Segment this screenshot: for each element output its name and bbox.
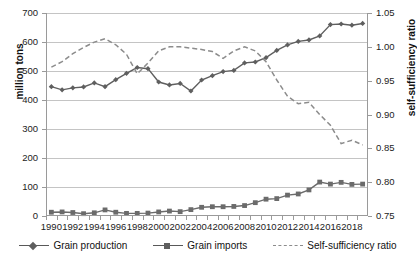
y-axis-left-tick-label: 200	[2, 153, 38, 163]
data-point-marker	[296, 192, 301, 197]
data-point-marker	[221, 69, 226, 74]
legend-item[interactable]: Grain imports	[153, 240, 247, 251]
x-axis-tick	[67, 216, 68, 220]
plot-area	[46, 13, 368, 216]
data-point-marker	[274, 196, 279, 201]
y-axis-right-tick	[368, 81, 372, 82]
legend-label: Self-sufficiency ratio	[307, 240, 396, 251]
x-axis-tick	[89, 216, 90, 220]
x-axis-tick	[46, 216, 47, 220]
data-point-marker	[210, 204, 215, 209]
data-point-marker	[189, 207, 194, 212]
x-axis-tick-label: 2014	[298, 221, 319, 232]
x-axis-tick-label: 2002	[170, 221, 191, 232]
data-point-marker	[60, 87, 65, 92]
data-point-marker	[349, 23, 354, 28]
x-axis-tick-label: 1996	[105, 221, 126, 232]
x-axis-tick	[132, 216, 133, 220]
data-point-marker	[124, 211, 129, 216]
x-axis-tick-label: 2006	[213, 221, 234, 232]
data-point-marker	[360, 182, 365, 187]
y-axis-right-tick	[368, 13, 372, 14]
data-point-marker	[253, 59, 258, 64]
data-point-marker	[49, 84, 54, 89]
data-point-marker	[49, 210, 54, 215]
y-axis-right-tick	[368, 148, 372, 149]
data-point-marker	[146, 211, 151, 216]
data-point-marker	[328, 182, 333, 187]
data-point-marker	[167, 209, 172, 214]
data-point-marker	[317, 180, 322, 185]
x-axis-tick	[143, 216, 144, 220]
data-point-marker	[360, 21, 365, 26]
y-axis-right-tick-label: 0.85	[376, 143, 410, 153]
data-point-marker	[178, 209, 183, 214]
x-axis-tick-label: 1998	[127, 221, 148, 232]
data-point-marker	[81, 211, 86, 216]
legend-key-icon	[19, 241, 49, 251]
x-axis-tick	[57, 216, 58, 220]
y-axis-right-title: self-sufficiency ratio	[406, 0, 417, 138]
x-axis-tick	[100, 216, 101, 220]
x-axis-tick	[261, 216, 262, 220]
x-axis-tick-label: 1992	[62, 221, 83, 232]
y-axis-left-tick-label: 0	[2, 211, 38, 221]
series-line	[51, 182, 362, 214]
y-axis-right-tick	[368, 115, 372, 116]
x-axis-tick	[293, 216, 294, 220]
x-axis-tick	[175, 216, 176, 220]
data-point-marker	[221, 204, 226, 209]
data-point-marker	[135, 211, 140, 216]
x-axis-tick-label: 2010	[255, 221, 276, 232]
y-axis-left-tick-label: 100	[2, 182, 38, 192]
data-point-marker	[242, 203, 247, 208]
x-axis-tick	[336, 216, 337, 220]
x-axis-tick-label: 2012	[277, 221, 298, 232]
x-axis-tick	[186, 216, 187, 220]
data-point-marker	[307, 188, 312, 193]
x-axis-tick	[250, 216, 251, 220]
legend-key-icon	[273, 241, 303, 251]
data-point-marker	[167, 82, 172, 87]
x-axis-tick	[325, 216, 326, 220]
x-axis-tick	[314, 216, 315, 220]
series-grain-production	[49, 21, 365, 94]
y-axis-right-tick	[368, 216, 372, 217]
data-point-marker	[296, 39, 301, 44]
data-point-marker	[285, 193, 290, 198]
data-point-marker	[103, 208, 108, 213]
x-axis-tick	[282, 216, 283, 220]
x-axis-tick	[78, 216, 79, 220]
x-axis-tick	[196, 216, 197, 220]
y-axis-right-tick-label: 0.80	[376, 177, 410, 187]
series-line	[51, 23, 362, 91]
x-axis-tick-label: 2018	[341, 221, 362, 232]
x-axis-tick	[110, 216, 111, 220]
x-axis-tick	[304, 216, 305, 220]
y-axis-left-tick	[42, 13, 46, 14]
legend-item[interactable]: Grain production	[19, 240, 127, 251]
data-point-marker	[210, 73, 215, 78]
y-axis-left-tick	[42, 158, 46, 159]
x-axis-tick	[239, 216, 240, 220]
x-axis-tick	[271, 216, 272, 220]
series-line	[51, 39, 362, 145]
data-point-marker	[350, 182, 355, 187]
data-point-marker	[264, 197, 269, 202]
x-axis-tick-label: 1990	[41, 221, 62, 232]
y-axis-right-tick	[368, 182, 372, 183]
x-axis-tick	[164, 216, 165, 220]
series-grain-imports	[49, 180, 365, 216]
y-axis-left-tick	[42, 187, 46, 188]
data-point-marker	[339, 21, 344, 26]
series-layer	[46, 13, 368, 216]
data-point-marker	[306, 37, 311, 42]
data-point-marker	[70, 85, 75, 90]
x-axis-tick-label: 2008	[234, 221, 255, 232]
data-point-marker	[199, 205, 204, 210]
legend-item[interactable]: Self-sufficiency ratio	[273, 240, 396, 251]
y-axis-right-tick-label: 0.75	[376, 211, 410, 221]
data-point-marker	[81, 84, 86, 89]
data-point-marker	[156, 210, 161, 215]
x-axis-tick-label: 2016	[320, 221, 341, 232]
